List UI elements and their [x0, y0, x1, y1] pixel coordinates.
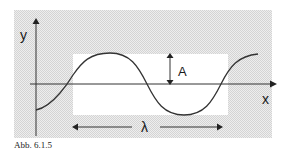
y-axis-label: y [20, 27, 27, 43]
x-axis-label: x [262, 91, 269, 107]
wave-diagram: A λ y x Abb. 6.1.5 [0, 0, 294, 156]
figure-caption: Abb. 6.1.5 [14, 140, 52, 150]
amplitude-label: A [178, 64, 187, 79]
wave-diagram-svg: A λ y x [0, 0, 294, 156]
wavelength-label: λ [141, 119, 148, 135]
x-axis-arrow-icon [270, 81, 277, 88]
